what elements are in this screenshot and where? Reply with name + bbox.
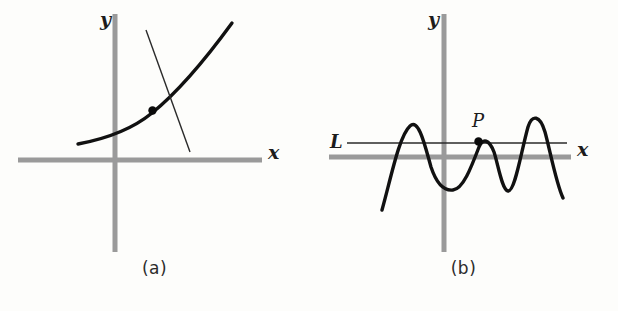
exponential-curve bbox=[78, 23, 232, 144]
panel-b: y x L P (b) bbox=[309, 0, 618, 311]
x-axis-label: x bbox=[577, 138, 588, 160]
panel-a-caption: (a) bbox=[0, 258, 309, 278]
point-P-marker bbox=[474, 137, 482, 145]
panel-b-caption: (b) bbox=[309, 258, 618, 278]
panel-a: y x (a) bbox=[0, 0, 309, 311]
point-P-label: P bbox=[472, 110, 484, 131]
y-axis-label: y bbox=[100, 8, 111, 30]
y-axis-label: y bbox=[428, 8, 439, 30]
line-L-label: L bbox=[330, 131, 343, 152]
intersection-point bbox=[148, 106, 156, 114]
oscillating-wave-curve bbox=[382, 118, 563, 210]
transversal-line bbox=[146, 30, 190, 152]
math-figure: y x (a) y x L P (b) bbox=[0, 0, 618, 311]
x-axis-label: x bbox=[268, 141, 279, 163]
